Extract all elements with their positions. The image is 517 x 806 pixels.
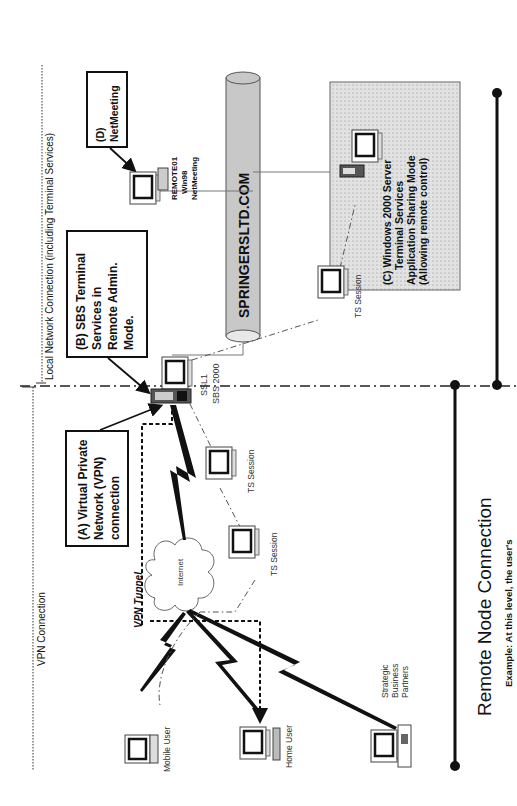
callout-d-line-2: NetMeeting bbox=[108, 85, 120, 142]
internet-cloud: Internet bbox=[145, 538, 214, 611]
callout-a-line-1: (A) Virtual Private bbox=[76, 439, 90, 540]
callout-c-box: (C) Windows 2000 Server Terminal Service… bbox=[330, 82, 460, 290]
domain-label: SPRINGERSLTD.COM bbox=[236, 173, 252, 318]
callout-b-line-4: Mode. bbox=[122, 315, 136, 350]
ts-session-2: TS Session bbox=[206, 447, 256, 493]
bolt-internet-mobile bbox=[140, 612, 186, 692]
callout-d: (D) NetMeeting bbox=[87, 72, 134, 170]
remote01-app: NetMeeting bbox=[190, 157, 199, 200]
internet-label: Internet bbox=[176, 558, 185, 586]
callout-c-line-1: (C) Windows 2000 Server bbox=[381, 160, 393, 285]
network-diagram: Local Network Connection (including Term… bbox=[0, 0, 517, 806]
server-name: SSL1 bbox=[199, 374, 209, 396]
mobile-user: Mobile User bbox=[125, 726, 172, 772]
home-user-label: Home User bbox=[284, 725, 294, 768]
callout-c-line-3: Application Sharing Mode bbox=[405, 155, 417, 285]
callout-b-line-1: (B) SBS Terminal bbox=[74, 253, 88, 350]
callout-c-line-4: (Allowing remote control) bbox=[417, 158, 429, 285]
sbs-server: SSL1 SBS 2000 bbox=[151, 357, 221, 404]
callout-a: (A) Virtual Private Network (VPN) connec… bbox=[66, 406, 160, 546]
callout-d-line-1: (D) bbox=[94, 127, 106, 142]
region-vpn: VPN Connection bbox=[22, 387, 47, 770]
domain-cylinder: SPRINGERSLTD.COM bbox=[226, 72, 260, 342]
ts-session-3: TS Session bbox=[229, 526, 279, 576]
mobile-user-label: Mobile User bbox=[162, 726, 172, 772]
ts-session-2-label: TS Session bbox=[246, 449, 256, 493]
partners-computer: Strategic Business Partners bbox=[371, 664, 411, 768]
timeline-local bbox=[492, 88, 502, 390]
callout-c-line-2: Terminal Services bbox=[393, 181, 405, 270]
remote01-name: REMOTE01 bbox=[170, 156, 179, 200]
partners-line-3: Partners bbox=[400, 666, 410, 698]
ts-session-1-label: TS Session bbox=[353, 274, 363, 318]
callout-b-line-3: Remote Admin. bbox=[106, 262, 120, 350]
footer-caption: Example: At this level, the user's bbox=[503, 539, 514, 687]
region-local-network: Local Network Connection (including Term… bbox=[36, 65, 55, 383]
vpn-label: VPN Connection bbox=[36, 592, 47, 666]
vpn-tunnel-label: VPN Tunnel bbox=[133, 572, 144, 628]
callout-b: (B) SBS Terminal Services in Remote Admi… bbox=[67, 231, 148, 392]
callout-a-line-3: connection bbox=[108, 476, 122, 540]
home-user: Home User bbox=[240, 725, 294, 768]
partners-line-2: Business bbox=[390, 664, 400, 699]
callout-b-line-2: Services in bbox=[90, 287, 104, 350]
ts-session-3-label: TS Session bbox=[269, 532, 279, 576]
remote01-computer: REMOTE01 Win98 NetMeeting bbox=[130, 156, 199, 204]
local-network-label: Local Network Connection (including Term… bbox=[44, 133, 55, 380]
sbs-wire bbox=[172, 342, 243, 355]
bolt-internet-server bbox=[170, 405, 196, 540]
callout-a-line-2: Network (VPN) bbox=[92, 457, 106, 540]
remote01-os: Win98 bbox=[180, 170, 189, 194]
partners-line-1: Strategic bbox=[380, 664, 390, 698]
footer-title: Remote Node Connection bbox=[474, 497, 495, 716]
timeline-remote bbox=[450, 380, 460, 771]
bolt-internet-partners bbox=[188, 609, 397, 730]
server-os: SBS 2000 bbox=[211, 363, 221, 404]
